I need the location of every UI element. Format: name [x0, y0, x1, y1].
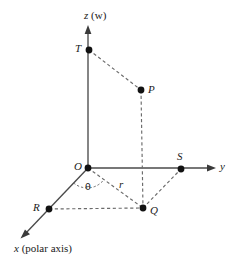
point-dot-S — [178, 166, 185, 173]
segment-Q-to-S — [143, 169, 181, 208]
z-axis-label: z (w) — [84, 10, 106, 21]
point-label-R: R — [33, 202, 40, 213]
y-axis-arrowhead — [207, 165, 216, 172]
point-dot-P — [138, 87, 145, 94]
point-label-S: S — [177, 151, 183, 162]
segment-R-to-Q — [49, 208, 143, 209]
point-label-O: O — [74, 161, 82, 172]
z-axis-label-note: (w) — [91, 9, 106, 21]
z-axis-arrowhead — [85, 25, 92, 34]
figure-canvas — [0, 0, 238, 263]
radius-label-r: r — [119, 179, 123, 190]
point-dot-R — [46, 206, 53, 213]
y-axis-label: y — [220, 161, 225, 172]
point-label-T: T — [75, 43, 81, 54]
point-dot-O — [85, 165, 92, 172]
point-label-P: P — [148, 84, 155, 95]
point-label-Q: Q — [150, 205, 158, 216]
point-dot-Q — [140, 205, 147, 212]
angle-label-theta: θ — [85, 182, 91, 192]
segment-O-to-Q-radius — [88, 168, 143, 208]
segment-T-to-P — [89, 50, 141, 90]
x-axis-label: x (polar axis) — [14, 243, 72, 254]
segment-P-to-Q — [141, 90, 143, 208]
cylindrical-coordinates-figure: z (w) y x (polar axis) T P O S R Q θ r — [0, 0, 238, 263]
x-axis-label-note: (polar axis) — [22, 242, 72, 254]
point-dot-T — [86, 47, 93, 54]
